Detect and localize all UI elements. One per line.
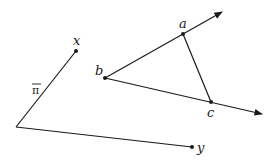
point-a <box>181 32 185 36</box>
label-c: c <box>207 105 215 120</box>
label-y: y <box>196 140 205 155</box>
segment-origin-y <box>16 127 192 147</box>
right-triangle-figure: b a c <box>95 12 262 120</box>
label-a: a <box>179 16 187 31</box>
segment-origin-x <box>16 51 76 127</box>
edge-label-pi: π <box>32 84 41 97</box>
geometry-diagram: x y π b a c <box>0 0 276 160</box>
ray-b-through-a <box>105 12 222 78</box>
label-pi: π <box>32 84 39 97</box>
ray-b-through-c <box>105 78 262 114</box>
point-y <box>190 145 194 149</box>
point-b <box>103 76 107 80</box>
label-x: x <box>73 33 81 48</box>
label-b: b <box>95 63 103 78</box>
segment-a-c <box>183 34 211 102</box>
point-x <box>74 49 78 53</box>
point-c <box>209 100 213 104</box>
